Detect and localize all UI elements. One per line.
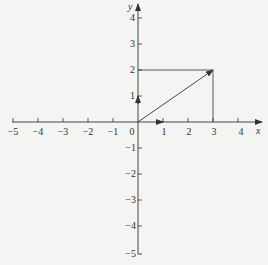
vector-arrow: [138, 70, 213, 122]
x-ticks: [13, 118, 238, 122]
x-tick-labels: −5 −4 −3 −2 −1 0 1 2 3 4: [8, 126, 244, 137]
svg-text:1: 1: [162, 126, 167, 137]
svg-text:2: 2: [130, 64, 135, 75]
svg-text:−5: −5: [125, 248, 136, 259]
svg-text:0: 0: [130, 126, 135, 137]
svg-text:3: 3: [212, 126, 217, 137]
svg-text:−1: −1: [125, 142, 136, 153]
y-axis-label: y: [127, 1, 133, 12]
svg-text:−2: −2: [83, 126, 94, 137]
svg-text:4: 4: [130, 12, 135, 23]
svg-text:−4: −4: [125, 220, 136, 231]
svg-text:−4: −4: [33, 126, 44, 137]
x-axis-label: x: [255, 125, 261, 136]
svg-text:2: 2: [187, 126, 192, 137]
svg-text:4: 4: [239, 126, 244, 137]
svg-text:1: 1: [130, 90, 135, 101]
svg-text:3: 3: [130, 38, 135, 49]
svg-text:−2: −2: [125, 168, 136, 179]
coordinate-plane: −5 −4 −3 −2 −1 0 1 2 3 4 x 1 2 3 4 −1 −2…: [0, 0, 268, 265]
svg-text:−5: −5: [8, 126, 19, 137]
svg-text:−3: −3: [125, 194, 136, 205]
svg-text:−1: −1: [108, 126, 119, 137]
svg-text:−3: −3: [58, 126, 69, 137]
